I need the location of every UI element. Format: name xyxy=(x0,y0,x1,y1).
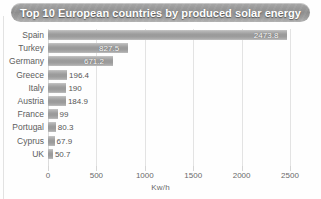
bar-row: Italy190 xyxy=(0,82,321,95)
value-label-turkey: 827.5 xyxy=(99,42,119,55)
bar-row: Austria184.9 xyxy=(0,95,321,108)
x-tick-label-1000: 1000 xyxy=(125,170,165,181)
bar-row: Turkey827.5 xyxy=(0,42,321,55)
bar-spain xyxy=(48,30,287,40)
x-tick-label-1500: 1500 xyxy=(173,170,213,181)
category-label-portugal: Portugal xyxy=(0,121,44,134)
x-tick-label-2000: 2000 xyxy=(222,170,262,181)
category-label-germany: Germany xyxy=(0,55,44,68)
value-label-greece: 196.4 xyxy=(69,69,89,82)
bar-greece xyxy=(48,70,67,80)
value-label-portugal: 80.3 xyxy=(58,121,74,134)
value-label-uk: 50.7 xyxy=(55,148,71,161)
bar-italy xyxy=(48,83,66,93)
value-label-austria: 184.9 xyxy=(68,95,88,108)
bar-row: France99 xyxy=(0,108,321,121)
category-label-uk: UK xyxy=(0,148,44,161)
bar-portugal xyxy=(48,122,56,132)
x-tick-label-500: 500 xyxy=(76,170,116,181)
category-label-spain: Spain xyxy=(0,29,44,42)
value-label-spain: 2473.8 xyxy=(254,29,278,42)
value-label-cyprus: 67.9 xyxy=(57,135,73,148)
bar-austria xyxy=(48,96,66,106)
category-label-france: France xyxy=(0,108,44,121)
value-label-france: 99 xyxy=(60,108,69,121)
chart-title-banner: Top 10 European countries by produced so… xyxy=(11,3,310,22)
category-label-greece: Greece xyxy=(0,69,44,82)
x-tick-label-2500: 2500 xyxy=(270,170,310,181)
value-label-italy: 190 xyxy=(68,82,81,95)
category-label-italy: Italy xyxy=(0,82,44,95)
category-label-austria: Austria xyxy=(0,95,44,108)
solar-energy-bar-chart: Top 10 European countries by produced so… xyxy=(0,0,321,199)
x-axis-title: Kw/h xyxy=(0,183,321,192)
category-label-turkey: Turkey xyxy=(0,42,44,55)
page-title: Top 10 European countries by produced so… xyxy=(11,7,310,19)
category-label-cyprus: Cyprus xyxy=(0,135,44,148)
bar-row: Portugal80.3 xyxy=(0,121,321,134)
value-label-germany: 671.2 xyxy=(84,55,104,68)
bar-row: Spain2473.8 xyxy=(0,29,321,42)
bar-cyprus xyxy=(48,136,55,146)
bar-uk xyxy=(48,149,53,159)
bar-row: Germany671.2 xyxy=(0,55,321,68)
bar-row: Cyprus67.9 xyxy=(0,135,321,148)
bar-row: Greece196.4 xyxy=(0,69,321,82)
bar-france xyxy=(48,109,58,119)
bar-row: UK50.7 xyxy=(0,148,321,161)
x-tick-label-0: 0 xyxy=(28,170,68,181)
